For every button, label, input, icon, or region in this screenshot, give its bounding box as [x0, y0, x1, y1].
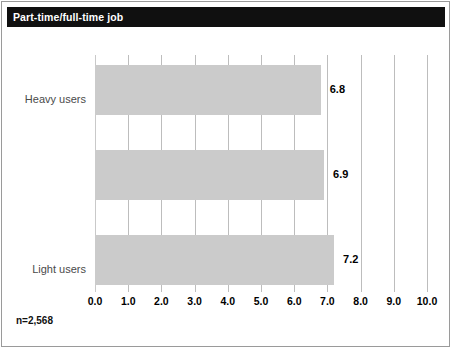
x-tick-label: 10.0 — [417, 295, 437, 307]
x-tick-label: 3.0 — [187, 295, 202, 307]
bar-value-label: 6.9 — [333, 168, 348, 180]
x-tick-label: 7.0 — [320, 295, 335, 307]
x-tick-label: 5.0 — [254, 295, 269, 307]
category-label: Light users — [32, 263, 86, 275]
gridline-9.0 — [394, 55, 395, 292]
bar: Heavy users — [95, 65, 321, 115]
bar-value-label: 6.8 — [330, 83, 345, 95]
x-tick-label: 9.0 — [386, 295, 401, 307]
x-tick-label: 6.0 — [287, 295, 302, 307]
gridline-10.0 — [427, 55, 428, 292]
x-tick-label: 2.0 — [154, 295, 169, 307]
gridline-8.0 — [361, 55, 362, 292]
x-tick-label: 1.0 — [121, 295, 136, 307]
page-title: Part-time/full-time job — [7, 11, 123, 23]
x-axis-tick-labels: 0.01.02.03.04.05.06.07.08.09.010.0 — [95, 295, 427, 311]
x-tick-label: 0.0 — [88, 295, 103, 307]
plot-area: Heavy users6.8Light users6.9Nonusers7.2 — [95, 55, 427, 292]
bar-value-label: 7.2 — [343, 253, 358, 265]
x-tick-label: 8.0 — [353, 295, 368, 307]
bar: Light users — [95, 150, 324, 200]
sample-size-note: n=2,568 — [16, 315, 53, 326]
bar: Nonusers — [95, 235, 334, 285]
category-label: Heavy users — [25, 93, 86, 105]
chart-title-bar: Part-time/full-time job — [7, 7, 445, 27]
chart-figure: Part-time/full-time job Heavy users6.8Li… — [1, 1, 450, 347]
x-tick-label: 4.0 — [220, 295, 235, 307]
